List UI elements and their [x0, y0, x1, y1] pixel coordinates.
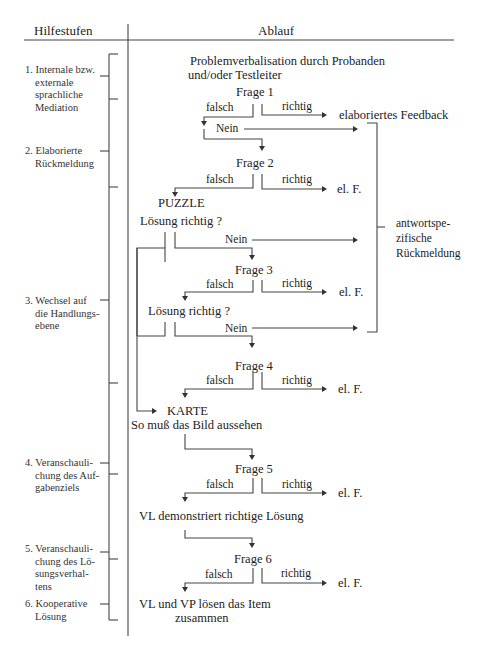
- help-level-2: 2. Elaborierte Rückmeldung: [25, 145, 94, 170]
- frage-3: Frage 3: [235, 263, 273, 277]
- help-level-1: 1. Internale bzw. externale sprachliche …: [25, 64, 95, 114]
- frage-1-falsch: falsch: [206, 101, 233, 114]
- vl-demonstriert-label: VL demonstriert richtige Lösung: [139, 509, 303, 523]
- frage-1-nein: Nein: [216, 122, 238, 135]
- frage-3-el-f: el. F.: [339, 285, 363, 299]
- loesung-2-nein: Nein: [225, 322, 247, 335]
- frage-3-falsch: falsch: [206, 278, 233, 291]
- frage-4-richtig: richtig: [282, 374, 312, 387]
- frage-6-el-f: el. F.: [338, 576, 362, 590]
- header-ablauf: Ablauf: [258, 24, 294, 39]
- elaborated-feedback: elaboriertes Feedback: [339, 108, 448, 122]
- frage-1-richtig: richtig: [282, 100, 312, 113]
- header-hilfestufen: Hilfestufen: [34, 24, 92, 39]
- frage-6-falsch: falsch: [205, 568, 232, 581]
- help-level-3: 3. Wechsel auf die Handlungs- ebene: [25, 295, 99, 333]
- frage-5-falsch: falsch: [206, 478, 233, 491]
- loesung-1-nein: Nein: [225, 233, 247, 246]
- frage-5-el-f: el. F.: [338, 486, 362, 500]
- frage-2: Frage 2: [236, 156, 274, 170]
- frage-5-richtig: richtig: [282, 478, 312, 491]
- so-muss-label: So muß das Bild aussehen: [131, 418, 262, 432]
- frage-5: Frage 5: [235, 462, 273, 476]
- frage-2-el-f: el. F.: [337, 182, 361, 196]
- frage-2-falsch: falsch: [206, 173, 233, 186]
- frage-3-richtig: richtig: [282, 277, 312, 290]
- help-level-5: 5. Veranschauli- chung des Lö- sungsverh…: [25, 543, 95, 593]
- right-bracket: [367, 123, 377, 332]
- help-level-6: 6. Kooperative Lösung: [25, 598, 87, 623]
- intro-line-2: und/oder Testleiter: [188, 68, 282, 82]
- puzzle-label: PUZZLE: [158, 196, 205, 210]
- loesung-richtig-2: Lösung richtig ?: [148, 304, 230, 318]
- vl-vp-line-1: VL und VP lösen das Item: [139, 597, 271, 611]
- help-level-4: 4. Veranschauli- chung des Auf- gabenzie…: [25, 457, 99, 495]
- loesung-richtig-1: Lösung richtig ?: [140, 214, 222, 228]
- frage-1: Frage 1: [236, 85, 274, 99]
- karte-label: KARTE: [167, 404, 208, 418]
- frage-4-el-f: el. F.: [338, 382, 362, 396]
- frage-2-richtig: richtig: [282, 173, 312, 186]
- intro-line-1: Problemverbalisation durch Probanden: [190, 54, 385, 68]
- right-bracket-label: antwortspe- zifische Rückmeldung: [396, 216, 461, 261]
- frage-6: Frage 6: [234, 552, 272, 566]
- vl-vp-line-2: zusammen: [175, 611, 228, 625]
- frage-6-richtig: richtig: [281, 567, 311, 580]
- frage-4-falsch: falsch: [206, 374, 233, 387]
- frage-4: Frage 4: [235, 359, 273, 373]
